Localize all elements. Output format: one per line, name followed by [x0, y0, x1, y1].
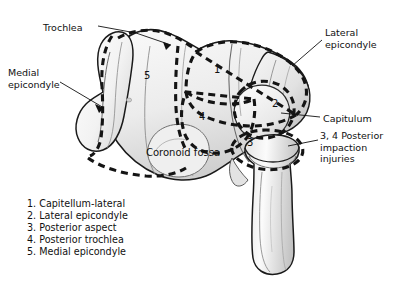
label-coronoid-fossa: Coronoid fossa — [146, 147, 220, 159]
callout-trochlea: Trochlea — [43, 22, 82, 34]
zone-number-2: 2 — [272, 98, 278, 109]
leader-lateral-epicondyle — [292, 40, 322, 66]
zone-number-3: 3 — [247, 137, 253, 148]
legend-item-5: 5. Medial epicondyle — [27, 246, 128, 258]
legend-item-3: 3. Posterior aspect — [27, 222, 128, 234]
callout-medial-epicondyle: Medial epicondyle — [8, 67, 60, 90]
legend: 1. Capitellum-lateral 2. Lateral epicond… — [27, 198, 128, 258]
callout-posterior-impaction: 3, 4 Posterior impaction injuries — [320, 130, 383, 165]
legend-item-1: 1. Capitellum-lateral — [27, 198, 128, 210]
legend-item-4: 4. Posterior trochlea — [27, 234, 128, 246]
zone-number-4: 4 — [199, 111, 205, 122]
legend-item-2: 2. Lateral epicondyle — [27, 210, 128, 222]
callout-lateral-epicondyle: Lateral epicondyle — [325, 27, 377, 50]
zone-number-1: 1 — [214, 64, 220, 75]
zone-number-5: 5 — [144, 70, 150, 81]
callout-capitulum: Capitulum — [323, 113, 372, 125]
